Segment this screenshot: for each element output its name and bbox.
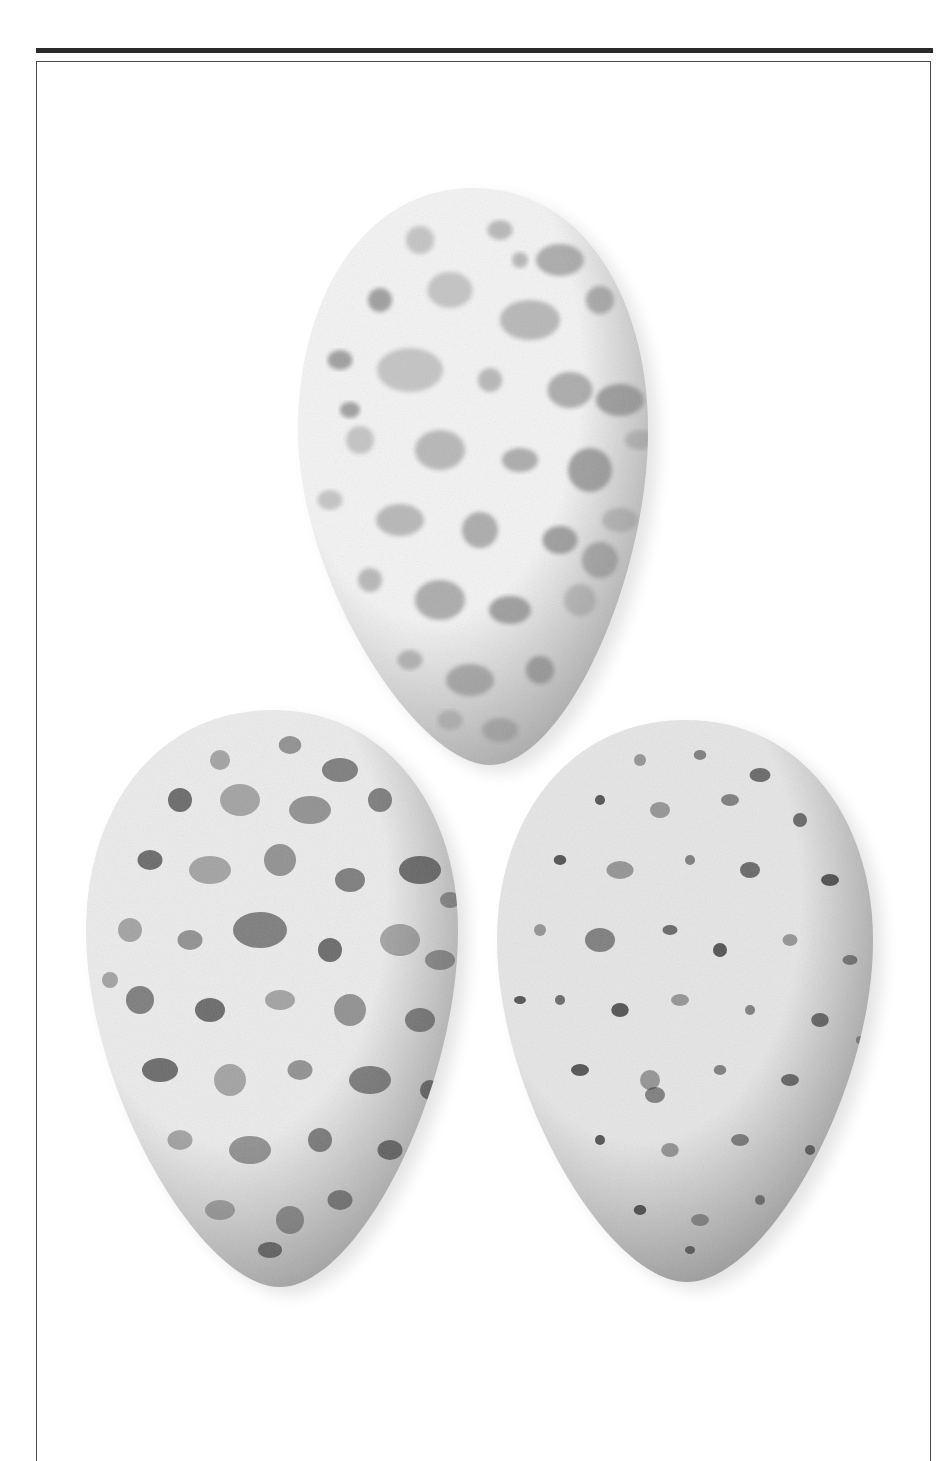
egg-bottom-left — [86, 710, 468, 1295]
egg-bottom-right — [497, 720, 883, 1290]
egg-top — [298, 188, 658, 773]
